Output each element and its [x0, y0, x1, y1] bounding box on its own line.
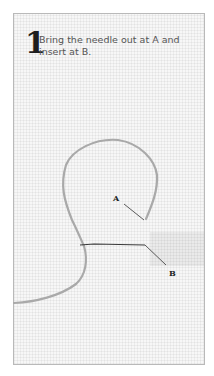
label-a: A [112, 193, 120, 203]
label-b: B [169, 268, 176, 278]
pointer-a [124, 204, 144, 220]
thread-tail [14, 246, 86, 303]
stitch-line [80, 244, 145, 245]
shading [150, 232, 204, 266]
stitch-diagram: A B [0, 0, 214, 376]
thread-loop [63, 140, 157, 246]
